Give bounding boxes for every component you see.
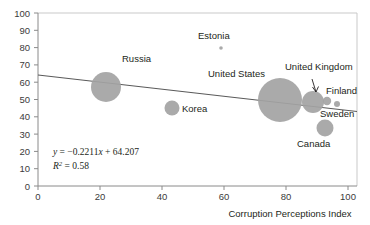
x-tick-label-20: 20: [95, 191, 106, 202]
y-tick-label-50: 50: [19, 94, 30, 105]
y-tick-label-80: 80: [19, 42, 30, 53]
bubble-sweden[interactable]: [334, 101, 340, 107]
scatter-chart: 100 90 80 70 60 50 40 30 20 10 0 0 20 40…: [0, 0, 370, 225]
x-axis-ticks: [38, 186, 348, 190]
y-tick-label-60: 60: [19, 77, 30, 88]
chart-canvas: 100 90 80 70 60 50 40 30 20 10 0 0 20 40…: [0, 0, 370, 225]
label-united-states: United States: [208, 68, 265, 79]
x-tick-label-80: 80: [281, 191, 292, 202]
uk-leader-line: [312, 79, 316, 92]
x-tick-label-100: 100: [340, 191, 356, 202]
trendline-equation: y = −0.2211x + 64.207: [52, 147, 139, 157]
bubble-united-states[interactable]: [258, 78, 302, 122]
bubble-finland[interactable]: [323, 97, 331, 105]
label-canada: Canada: [297, 138, 331, 149]
y-tick-label-10: 10: [19, 163, 30, 174]
label-estonia: Estonia: [198, 30, 230, 41]
x-tick-label-60: 60: [219, 191, 230, 202]
label-sweden: Sweden: [320, 108, 354, 119]
bubble-russia[interactable]: [91, 72, 121, 102]
y-tick-label-100: 100: [14, 8, 30, 19]
bubble-canada[interactable]: [317, 120, 334, 137]
y-tick-label-70: 70: [19, 59, 30, 70]
label-finland: Finland: [326, 85, 357, 96]
x-axis-title: Corruption Perceptions Index: [228, 208, 351, 219]
y-tick-label-90: 90: [19, 25, 30, 36]
bubble-korea[interactable]: [165, 101, 180, 116]
bubble-estonia[interactable]: [219, 46, 223, 50]
y-tick-label-20: 20: [19, 146, 30, 157]
y-tick-label-40: 40: [19, 111, 30, 122]
trendline-r-squared: R2 = 0.58: [52, 160, 89, 172]
label-korea: Korea: [182, 103, 208, 114]
label-russia: Russia: [122, 53, 152, 64]
y-axis-ticks: [34, 13, 38, 186]
label-united-kingdom: United Kingdom: [285, 61, 353, 72]
x-tick-label-0: 0: [35, 191, 40, 202]
y-tick-label-0: 0: [25, 181, 30, 192]
x-tick-label-40: 40: [157, 191, 168, 202]
y-tick-label-30: 30: [19, 129, 30, 140]
